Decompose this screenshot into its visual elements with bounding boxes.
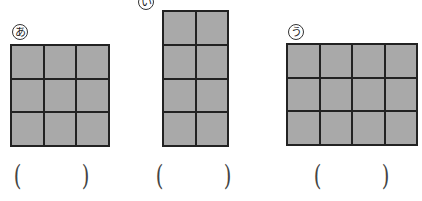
grid-2x4 bbox=[162, 10, 229, 147]
grid-cell bbox=[163, 112, 196, 146]
answer-blank-a[interactable] bbox=[28, 162, 80, 192]
close-paren: ) bbox=[82, 162, 90, 190]
grid-4x3 bbox=[286, 43, 418, 146]
answer-blank-i[interactable] bbox=[170, 162, 222, 192]
open-paren: ( bbox=[14, 162, 22, 190]
grid-cell bbox=[44, 45, 77, 79]
grid-cell bbox=[44, 79, 77, 113]
grid-cell bbox=[287, 78, 320, 112]
grid-cell bbox=[287, 111, 320, 145]
grid-cell bbox=[76, 79, 109, 113]
grid-cell bbox=[11, 79, 44, 113]
figure-label-i: い bbox=[138, 0, 154, 10]
grid-cell bbox=[196, 11, 229, 45]
grid-cell bbox=[385, 44, 418, 78]
grid-3x3 bbox=[10, 44, 110, 147]
grid-cell bbox=[352, 78, 385, 112]
answer-blank-u[interactable] bbox=[328, 162, 380, 192]
grid-cell bbox=[196, 45, 229, 79]
open-paren: ( bbox=[156, 162, 164, 190]
grid-cell bbox=[76, 45, 109, 79]
grid-cell bbox=[163, 45, 196, 79]
grid-cell bbox=[352, 111, 385, 145]
close-paren: ) bbox=[382, 162, 390, 190]
grid-cell bbox=[163, 11, 196, 45]
grid-cell bbox=[163, 79, 196, 113]
figure-label-u: う bbox=[288, 24, 304, 40]
grid-cell bbox=[196, 112, 229, 146]
grid-cell bbox=[352, 44, 385, 78]
grid-cell bbox=[11, 112, 44, 146]
grid-cell bbox=[11, 45, 44, 79]
grid-cell bbox=[196, 79, 229, 113]
figure-label-a: あ bbox=[12, 24, 28, 40]
grid-cell bbox=[76, 112, 109, 146]
grid-cell bbox=[320, 111, 353, 145]
close-paren: ) bbox=[224, 162, 232, 190]
grid-cell bbox=[44, 112, 77, 146]
grid-cell bbox=[385, 111, 418, 145]
grid-cell bbox=[385, 78, 418, 112]
grid-cell bbox=[320, 44, 353, 78]
open-paren: ( bbox=[314, 162, 322, 190]
grid-cell bbox=[320, 78, 353, 112]
grid-cell bbox=[287, 44, 320, 78]
